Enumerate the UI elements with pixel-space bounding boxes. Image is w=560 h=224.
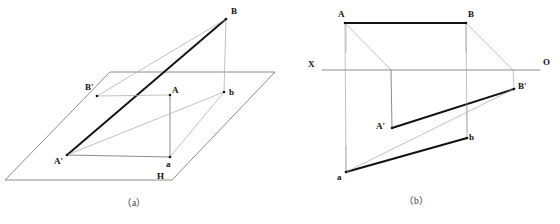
point-Ap-b: [391, 127, 394, 130]
caption-b: （b）: [404, 197, 429, 207]
point-B-b: [465, 22, 468, 25]
diagram-geometry: [0, 0, 560, 224]
panel-a-label-a: a: [166, 160, 171, 169]
panel-b-label-b: b: [469, 133, 474, 142]
point-a-b: [345, 171, 348, 174]
panel-a-label-Bprime: B': [85, 83, 94, 92]
panel-b-label-X: X: [308, 60, 315, 69]
segment-a-to-b: [170, 92, 224, 157]
panel-b-label-Bprime: B': [518, 82, 527, 91]
panel-a-label-A: A: [172, 86, 179, 95]
segment-Bprime-to-A: [97, 95, 170, 96]
point-a-a: [169, 156, 172, 159]
point-Ap-a: [66, 154, 69, 157]
segment-axis-to-Aprime: [391, 70, 392, 128]
panel-b-label-A: A: [338, 10, 345, 19]
segment-Aprime-to-b: [67, 92, 224, 155]
panel-b-label-Aprime: A': [376, 122, 385, 131]
panel-b-label-O: O: [543, 58, 550, 67]
point-Bp-b: [513, 88, 516, 91]
segment-Aprime-Bprime: [392, 89, 514, 128]
panel-a-label-H: H: [157, 172, 164, 181]
point-A-a: [169, 94, 172, 97]
caption-a: （a）: [122, 199, 146, 209]
segment-axis-to-Bprime: [513, 70, 514, 89]
segment-Aprime-to-a: [67, 155, 170, 157]
panel-b-label-a: a: [337, 173, 342, 182]
figure-canvas: BB'AbA'aH XOABB'A'ba （a）（b）: [0, 0, 560, 224]
panel-a-label-B: B: [231, 7, 237, 16]
panel-a-label-b: b: [229, 88, 234, 97]
panel-b-label-B: B: [468, 10, 474, 19]
point-A-b: [344, 22, 347, 25]
point-b-b: [466, 137, 469, 140]
segment-Bprime-to-B: [97, 19, 226, 96]
segment-A-to-axis: [345, 23, 391, 70]
point-Bp-a: [96, 95, 99, 98]
segment-B-to-axis: [466, 23, 513, 70]
segment-a-to-Bprime: [346, 89, 514, 172]
segment-a-b: [346, 138, 467, 172]
segment-B-to-b: [224, 19, 226, 92]
panel-a-label-Aprime: A': [54, 157, 63, 166]
point-B-a: [225, 18, 228, 21]
point-b-a: [223, 91, 226, 94]
